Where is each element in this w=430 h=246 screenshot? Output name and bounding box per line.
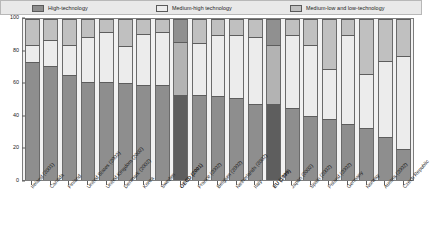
legend-item-high-technology: High-technology xyxy=(32,3,88,14)
bar-canada xyxy=(43,19,58,180)
bar-netherlands-2002 xyxy=(229,19,244,180)
y-axis-tick-mark xyxy=(22,50,25,51)
bar-segment xyxy=(322,19,337,69)
bar-segment xyxy=(192,19,207,43)
bar-segment xyxy=(378,61,393,137)
bar-segment xyxy=(211,19,226,35)
legend-label-medium-high-technology: Medium-high technology xyxy=(172,6,232,11)
y-axis-tick-label: 100 xyxy=(1,15,19,20)
bar-segment xyxy=(285,19,300,35)
bar-segment xyxy=(136,19,151,33)
bar-segment xyxy=(285,35,300,107)
bar-segment xyxy=(378,137,393,180)
bars-container xyxy=(23,19,413,180)
legend-label-high-technology: High-technology xyxy=(48,6,88,11)
bar-austria-2002 xyxy=(378,19,393,180)
y-axis-tick-mark xyxy=(22,83,25,84)
bar-czech-republic xyxy=(396,19,411,180)
legend-label-medium-low-and-low-technology: Medium-low and low-technology xyxy=(306,6,384,11)
bar-segment xyxy=(81,19,96,37)
chart-legend: High-technology Medium-high technology M… xyxy=(0,0,422,15)
bar-segment xyxy=(173,19,188,42)
bar-segment xyxy=(229,19,244,35)
bar-segment xyxy=(43,40,58,66)
bar-segment xyxy=(81,37,96,82)
bar-segment xyxy=(266,104,281,180)
bar-segment xyxy=(118,46,133,83)
y-axis-tick-mark xyxy=(22,181,25,182)
bar-segment xyxy=(266,19,281,45)
legend-item-medium-high-technology: Medium-high technology xyxy=(156,3,232,14)
bar-segment xyxy=(341,19,356,35)
bar-segment xyxy=(248,19,263,37)
bar-segment xyxy=(396,56,411,149)
bar-segment xyxy=(341,35,356,124)
plot-area xyxy=(22,18,414,181)
bar-segment xyxy=(25,19,40,45)
bar-segment xyxy=(192,43,207,95)
bar-segment xyxy=(173,42,188,95)
legend-item-medium-low-and-low-technology: Medium-low and low-technology xyxy=(290,3,384,14)
bar-segment xyxy=(359,74,374,129)
bar-segment xyxy=(211,35,226,96)
bar-segment xyxy=(118,19,133,46)
x-axis: Ireland (2001)CanadaFinlandUnited States… xyxy=(22,181,414,246)
bar-segment xyxy=(25,62,40,180)
bar-segment xyxy=(62,75,77,180)
legend-swatch-high-technology xyxy=(32,5,44,12)
bar-segment xyxy=(155,85,170,180)
bar-belgium-2002 xyxy=(211,19,226,180)
legend-swatch-medium-high-technology xyxy=(156,5,168,12)
bar-segment xyxy=(303,45,318,116)
y-axis: 020406080100 xyxy=(0,18,22,181)
y-axis-tick-mark xyxy=(22,115,25,116)
bar-oecd-2001 xyxy=(173,19,188,180)
bar-finland xyxy=(62,19,77,180)
bar-france-2002 xyxy=(192,19,207,180)
bar-sweden xyxy=(155,19,170,180)
bar-segment xyxy=(396,19,411,56)
y-axis-tick-mark xyxy=(22,148,25,149)
bar-segment xyxy=(322,69,337,119)
bar-segment xyxy=(155,19,170,32)
bar-segment xyxy=(359,19,374,74)
bar-segment xyxy=(43,19,58,40)
bar-segment xyxy=(248,37,263,105)
y-axis-tick-label: 0 xyxy=(1,178,19,183)
bar-norway xyxy=(359,19,374,180)
bar-spain-2002 xyxy=(303,19,318,180)
bar-segment xyxy=(229,35,244,98)
y-axis-tick-mark xyxy=(22,18,25,19)
bar-segment xyxy=(81,82,96,180)
y-axis-tick-label: 20 xyxy=(1,146,19,151)
bar-germany xyxy=(341,19,356,180)
bar-poland-2002 xyxy=(322,19,337,180)
bar-ireland-2001 xyxy=(25,19,40,180)
y-axis-tick-label: 40 xyxy=(1,113,19,118)
bar-united-states-2002 xyxy=(81,19,96,180)
bar-segment xyxy=(155,32,170,85)
y-axis-tick-label: 60 xyxy=(1,80,19,85)
bar-segment xyxy=(62,19,77,45)
bar-segment xyxy=(136,34,151,86)
bar-segment xyxy=(99,32,114,82)
bar-segment xyxy=(99,19,114,32)
bar-segment xyxy=(303,19,318,45)
legend-swatch-medium-low-and-low-technology xyxy=(290,5,302,12)
bar-segment xyxy=(378,19,393,61)
y-axis-tick-label: 80 xyxy=(1,48,19,53)
bar-segment xyxy=(25,45,40,63)
bar-segment xyxy=(62,45,77,76)
bar-segment xyxy=(266,45,281,105)
bar-japan-2002 xyxy=(285,19,300,180)
bar-segment xyxy=(173,95,188,180)
